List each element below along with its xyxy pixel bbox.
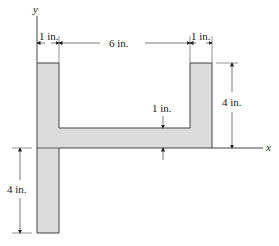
- cross-section-shape: [37, 63, 212, 233]
- dim-right-flange-width: 1 in.: [191, 30, 211, 42]
- dim-right-height: 4 in.: [222, 96, 242, 108]
- dim-web-thickness: 1 in.: [152, 102, 172, 114]
- top-dimensions: 1 in. 6 in. 1 in.: [37, 30, 212, 63]
- dim-left-depth: 4 in.: [7, 183, 27, 195]
- right-height-dimension: 4 in.: [216, 63, 242, 148]
- left-depth-dimension: 4 in.: [7, 148, 32, 233]
- cross-section-diagram: y x 1 in. 6 in. 1 in. 1 in. 4 in.: [0, 0, 279, 246]
- dim-left-flange-width: 1 in.: [39, 30, 59, 42]
- x-axis-label: x: [265, 141, 271, 153]
- dim-web-span: 6 in.: [109, 37, 129, 49]
- y-axis-label: y: [32, 3, 38, 15]
